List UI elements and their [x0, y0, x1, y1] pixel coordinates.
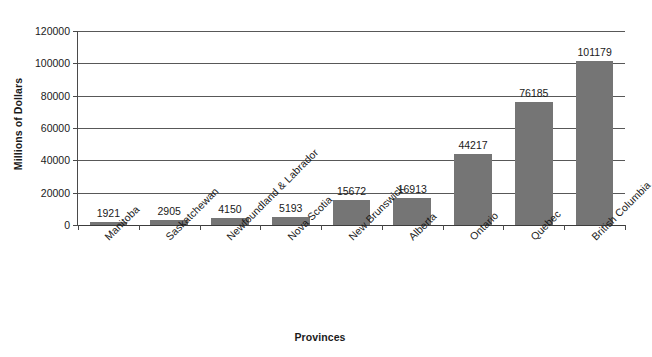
y-tick-mark: [73, 63, 78, 64]
bar-value-label: 5193: [279, 202, 302, 214]
gridline: [78, 63, 625, 64]
y-tick-label: 20000: [41, 187, 70, 199]
x-tick-mark: [443, 225, 444, 230]
y-tick-label: 60000: [41, 122, 70, 134]
x-tick-mark: [321, 225, 322, 230]
x-tick-mark: [503, 225, 504, 230]
x-tick-mark: [564, 225, 565, 230]
x-tick-mark: [382, 225, 383, 230]
y-tick-mark: [73, 96, 78, 97]
y-tick-label: 40000: [41, 154, 70, 166]
x-tick-mark: [78, 225, 79, 230]
x-axis-title: Provinces: [0, 331, 640, 343]
bar-value-label: 101179: [577, 46, 611, 58]
y-tick-mark: [73, 193, 78, 194]
y-tick-mark: [73, 160, 78, 161]
plot-area: 020000400006000080000100000120000 192129…: [78, 31, 625, 225]
y-tick-label: 80000: [41, 90, 70, 102]
y-tick-label: 100000: [35, 57, 70, 69]
bar-value-label: 44217: [458, 139, 487, 151]
bar-value-label: 4150: [218, 203, 241, 215]
x-tick-mark: [625, 225, 626, 230]
y-tick-label: 0: [64, 219, 70, 231]
x-tick-mark: [200, 225, 201, 230]
bar-value-label: 1921: [97, 207, 120, 219]
y-tick-mark: [73, 31, 78, 32]
bar-value-label: 76185: [519, 87, 548, 99]
y-tick-label: 120000: [35, 25, 70, 37]
x-tick-mark: [260, 225, 261, 230]
bar-value-label: 15672: [337, 185, 366, 197]
y-axis-title: Millions of Dollars: [12, 44, 24, 204]
bar: [576, 61, 614, 225]
bar: [515, 102, 553, 225]
y-tick-mark: [73, 128, 78, 129]
gridline: [78, 31, 625, 32]
bar-value-label: 2905: [157, 205, 180, 217]
x-tick-mark: [139, 225, 140, 230]
